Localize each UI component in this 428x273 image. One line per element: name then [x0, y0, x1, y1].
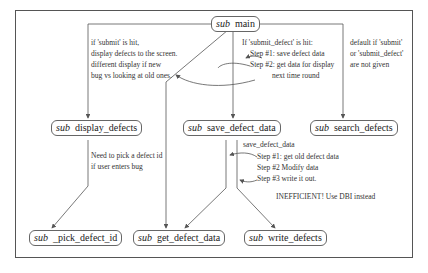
- note-save-title: save_defect_data: [243, 139, 295, 150]
- node-label: search_defects: [334, 122, 393, 133]
- node-search-defects[interactable]: subsearch_defects: [310, 120, 398, 136]
- node-label: _pick_defect_id: [53, 232, 117, 243]
- node-label: main: [235, 18, 255, 29]
- node-pick-defect-id[interactable]: sub_pick_defect_id: [29, 230, 122, 246]
- node-keyword: sub: [188, 122, 202, 133]
- node-keyword: sub: [138, 232, 152, 243]
- node-get-defect-data[interactable]: subget_defect_data: [133, 230, 225, 246]
- node-keyword: sub: [56, 122, 70, 133]
- note-save-steps: Step #1: get old defect dataStep #2 Modi…: [257, 151, 339, 184]
- note-inefficient: INEFFICIENT! Use DBI instead: [276, 191, 375, 202]
- node-save-defect-data[interactable]: subsave_defect_data: [183, 120, 281, 136]
- node-keyword: sub: [249, 232, 263, 243]
- node-label: write_defects: [268, 232, 322, 243]
- node-keyword: sub: [34, 232, 48, 243]
- node-label: save_defect_data: [207, 122, 276, 133]
- node-keyword: sub: [216, 18, 230, 29]
- node-keyword: sub: [315, 122, 329, 133]
- note-default: default if 'submit'or 'submit_defect'are…: [350, 37, 403, 70]
- node-display-defects[interactable]: subdisplay_defects: [51, 120, 142, 136]
- node-write-defects[interactable]: subwrite_defects: [244, 230, 327, 246]
- node-label: display_defects: [75, 122, 137, 133]
- note-submit: if 'submit' is hit,display defects to th…: [91, 37, 177, 81]
- node-label: get_defect_data: [157, 232, 220, 243]
- node-main[interactable]: submain: [211, 16, 260, 32]
- note-pick: Need to pick a defect idif user enters b…: [91, 150, 162, 172]
- note-submit-defect: If 'submit_defect' is hit: Step #1: save…: [242, 37, 334, 81]
